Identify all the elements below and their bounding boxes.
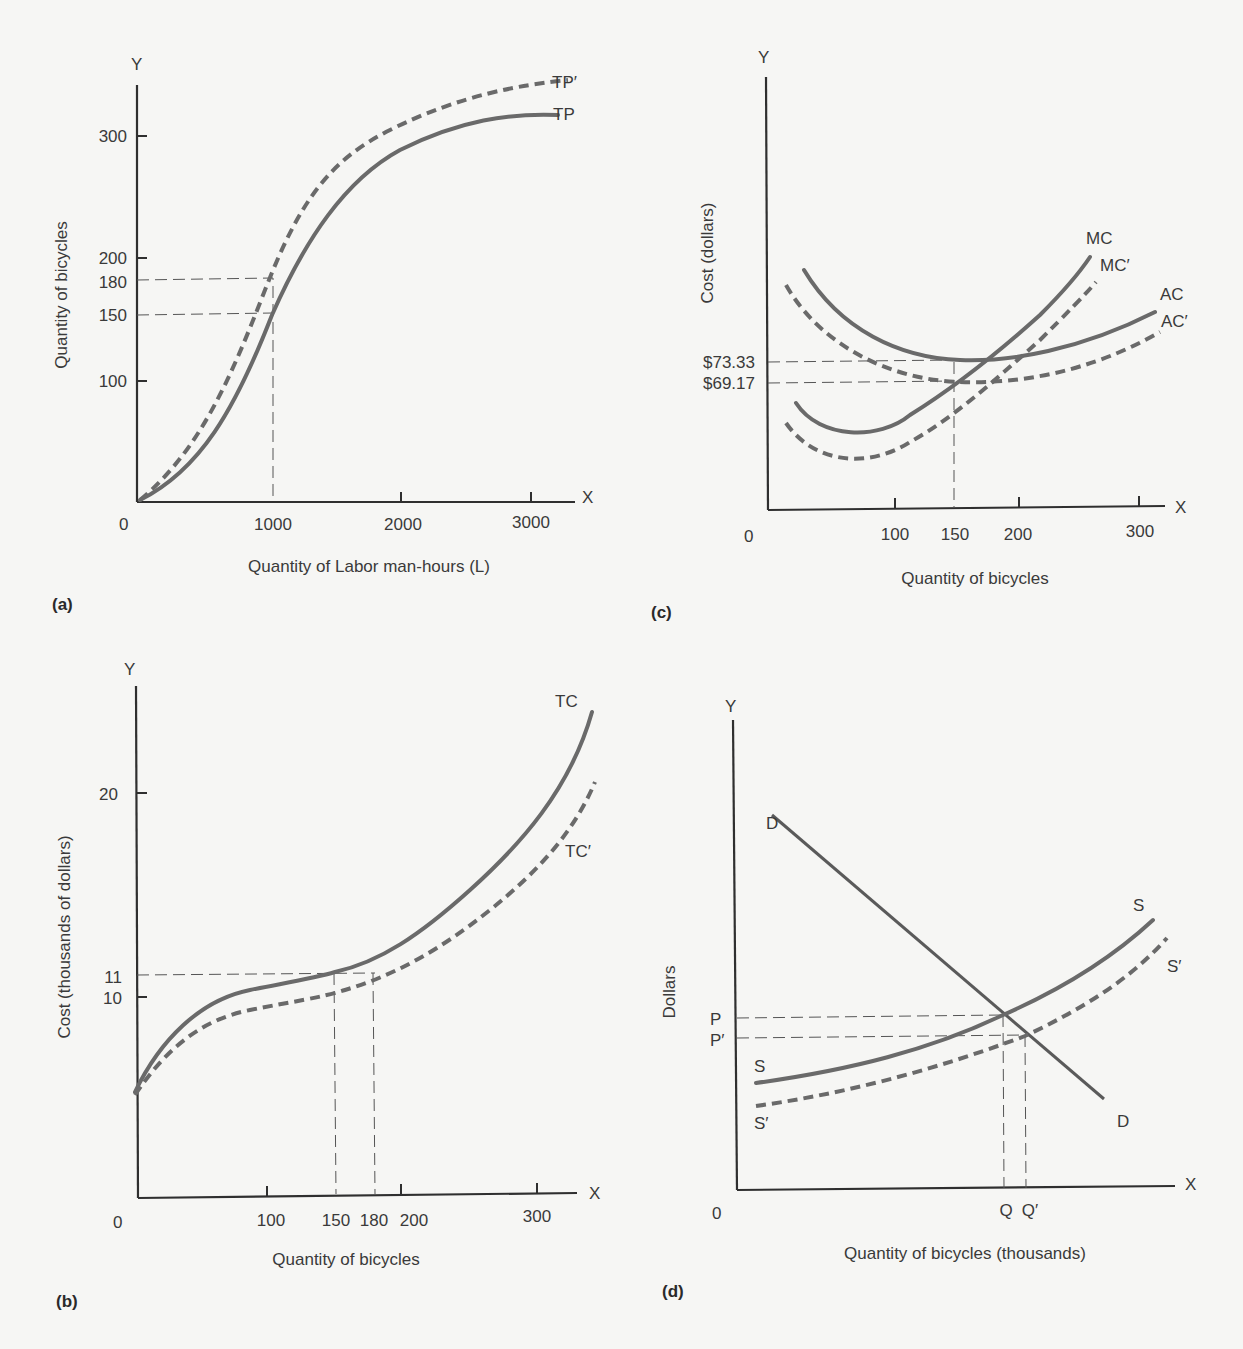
a-label-tp-prime: TP′ bbox=[552, 73, 577, 92]
b-label-tc: TC bbox=[555, 692, 578, 711]
c-label-ac: AC bbox=[1160, 285, 1184, 304]
c-xtick-300: 300 bbox=[1126, 522, 1154, 541]
d-xtick-q: Q bbox=[999, 1201, 1012, 1220]
a-ytick-300: 300 bbox=[99, 127, 127, 146]
b-ytick-10: 10 bbox=[103, 989, 122, 1008]
c-ylabel: Cost (dollars) bbox=[698, 202, 717, 303]
b-xtick-200: 200 bbox=[400, 1211, 428, 1230]
c-x-axis-letter: X bbox=[1175, 498, 1186, 517]
b-y-axis-letter: Y bbox=[124, 660, 135, 679]
d-curve-supply-prime bbox=[756, 938, 1167, 1106]
c-xlabel: Quantity of bicycles bbox=[901, 569, 1048, 588]
a-xtick-2000: 2000 bbox=[384, 515, 422, 534]
a-xlabel: Quantity of Labor man-hours (L) bbox=[248, 557, 490, 576]
c-label-mc: MC bbox=[1086, 229, 1112, 248]
b-panel-tag: (b) bbox=[56, 1292, 78, 1311]
b-ylabel: Cost (thousands of dollars) bbox=[55, 835, 74, 1038]
c-ytick-69-17: $69.17 bbox=[703, 374, 755, 393]
a-y-axis-letter: Y bbox=[131, 55, 142, 74]
a-label-tp: TP bbox=[553, 105, 575, 124]
d-ytick-p-prime: P′ bbox=[710, 1031, 725, 1050]
c-origin-label: 0 bbox=[744, 527, 753, 546]
c-label-ac-prime: AC′ bbox=[1161, 312, 1188, 331]
a-x-axis-letter: X bbox=[582, 488, 593, 507]
b-xtick-100: 100 bbox=[257, 1211, 285, 1230]
d-label-s-left: S bbox=[754, 1057, 765, 1076]
a-curve-tp bbox=[140, 115, 558, 500]
d-y-axis bbox=[733, 720, 737, 1190]
d-guide-p-prime bbox=[737, 1035, 1025, 1038]
c-label-mc-prime: MC′ bbox=[1100, 256, 1130, 275]
d-guide-q bbox=[1003, 1015, 1004, 1188]
a-curve-tp-prime bbox=[140, 80, 568, 500]
d-label-s-prime-left: S′ bbox=[754, 1114, 769, 1133]
d-ytick-p: P bbox=[710, 1010, 721, 1029]
d-label-s-prime-right: S′ bbox=[1167, 957, 1182, 976]
b-x-axis bbox=[138, 1193, 577, 1198]
a-xtick-3000: 3000 bbox=[512, 513, 550, 532]
a-ytick-100: 100 bbox=[99, 372, 127, 391]
b-y-axis bbox=[136, 686, 138, 1198]
d-y-axis-letter: Y bbox=[725, 697, 736, 716]
panel-c: Y X 0 100 150 200 300 $73.33 $69.17 MC M… bbox=[651, 48, 1188, 622]
d-x-axis bbox=[737, 1186, 1175, 1190]
b-guide-11 bbox=[137, 973, 375, 975]
d-label-s-right: S bbox=[1133, 896, 1144, 915]
a-ytick-150: 150 bbox=[99, 306, 127, 325]
b-x-axis-letter: X bbox=[589, 1184, 600, 1203]
a-guide-180 bbox=[137, 278, 273, 502]
b-label-tc-prime: TC′ bbox=[565, 842, 591, 861]
c-panel-tag: (c) bbox=[651, 603, 672, 622]
d-label-d-bottom: D bbox=[1117, 1112, 1129, 1131]
panel-d: Y X 0 P P′ Q Q′ D D S S S′ S′ Dollars Qu… bbox=[660, 697, 1196, 1301]
b-xtick-150: 150 bbox=[322, 1211, 350, 1230]
c-curve-ac bbox=[804, 270, 1155, 360]
d-origin-label: 0 bbox=[712, 1204, 721, 1223]
c-ytick-73-33: $73.33 bbox=[703, 353, 755, 372]
b-curve-tc bbox=[135, 712, 592, 1092]
a-guide-150 bbox=[137, 313, 273, 315]
d-xtick-q-prime: Q′ bbox=[1022, 1201, 1038, 1220]
a-ytick-200: 200 bbox=[99, 249, 127, 268]
b-origin-label: 0 bbox=[113, 1213, 122, 1232]
d-guide-q-prime bbox=[1025, 1035, 1026, 1188]
a-xtick-1000: 1000 bbox=[254, 515, 292, 534]
b-ytick-11: 11 bbox=[104, 968, 122, 987]
d-x-axis-letter: X bbox=[1185, 1175, 1196, 1194]
c-guide-73-33 bbox=[768, 360, 954, 362]
b-guide-150 bbox=[334, 973, 336, 1194]
c-guide-69-17 bbox=[768, 381, 954, 383]
c-y-axis-letter: Y bbox=[758, 48, 769, 67]
a-ylabel: Quantity of bicycles bbox=[52, 221, 71, 368]
d-ylabel: Dollars bbox=[660, 966, 679, 1019]
b-xtick-180: 180 bbox=[360, 1211, 388, 1230]
c-xtick-150: 150 bbox=[941, 525, 969, 544]
d-xlabel: Quantity of bicycles (thousands) bbox=[844, 1244, 1086, 1263]
d-curve-supply bbox=[756, 920, 1153, 1083]
d-guide-p bbox=[737, 1015, 1003, 1018]
panel-a: Y X 0 300 200 180 150 100 1000 2000 3000… bbox=[52, 55, 593, 614]
b-xtick-300: 300 bbox=[523, 1207, 551, 1226]
d-label-d-top: D bbox=[766, 814, 778, 833]
c-y-axis bbox=[766, 77, 768, 510]
a-origin-label: 0 bbox=[119, 515, 128, 534]
a-ytick-180: 180 bbox=[99, 273, 127, 292]
b-guide-180 bbox=[373, 973, 375, 1194]
b-xlabel: Quantity of bicycles bbox=[272, 1250, 419, 1269]
c-x-axis bbox=[768, 506, 1165, 510]
b-ytick-20: 20 bbox=[99, 785, 118, 804]
a-panel-tag: (a) bbox=[52, 595, 73, 614]
c-xtick-100: 100 bbox=[881, 525, 909, 544]
c-xtick-200: 200 bbox=[1004, 525, 1032, 544]
b-curve-tc-prime bbox=[135, 782, 595, 1095]
figure-canvas: Y X 0 300 200 180 150 100 1000 2000 3000… bbox=[0, 0, 1243, 1349]
panel-b: Y X 0 20 11 10 100 150 180 200 300 TC TC… bbox=[55, 660, 600, 1311]
d-panel-tag: (d) bbox=[662, 1282, 684, 1301]
d-line-demand bbox=[772, 815, 1104, 1099]
